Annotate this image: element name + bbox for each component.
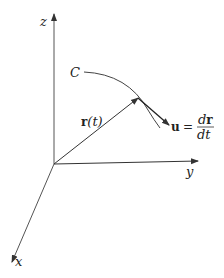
- x-axis-label: x: [15, 254, 23, 269]
- y-axis: [54, 161, 198, 164]
- curve-label: C: [70, 65, 80, 80]
- derivative-denominator: dt: [197, 127, 211, 142]
- y-axis-label: y: [185, 164, 194, 179]
- position-vector-label: r(t): [81, 114, 103, 129]
- position-vector-r: [54, 98, 138, 164]
- tangent-vector-u: [138, 98, 169, 125]
- vector-diagram: z y x C r(t) u = dr dt: [0, 0, 224, 278]
- z-axis-label: z: [39, 14, 47, 29]
- tangent-vector-symbol: u: [171, 120, 180, 134]
- derivative-numerator: dr: [198, 112, 213, 127]
- x-axis: [12, 164, 54, 262]
- equals-sign: =: [183, 120, 193, 134]
